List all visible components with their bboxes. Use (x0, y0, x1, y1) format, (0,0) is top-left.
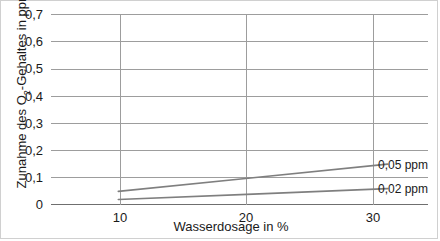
series-label-0.05ppm: 0,05 ppm (378, 159, 428, 171)
y-axis-title-subscript: 2 (22, 90, 32, 95)
plot-area (51, 14, 428, 205)
y-axis-title-before: Zunahme des O (14, 95, 29, 188)
series-line-0.05ppm (118, 164, 387, 191)
series-line-0.02ppm (118, 189, 387, 200)
x-axis-title: Wasserdosage in % (51, 219, 411, 234)
series-label-0.02ppm: 0,02 ppm (378, 183, 428, 195)
series-layer (51, 14, 428, 205)
ytick-label-0: 0 (1, 198, 43, 211)
y-axis-title-after: -Gehaltes in ppm (14, 0, 29, 90)
y-axis-title: Zunahme des O2-Gehaltes in ppm (14, 0, 32, 190)
chart-frame: 0,7 0,6 0,5 0,4 0,3 0,2 0,1 0 10 20 30 Z… (0, 0, 438, 239)
